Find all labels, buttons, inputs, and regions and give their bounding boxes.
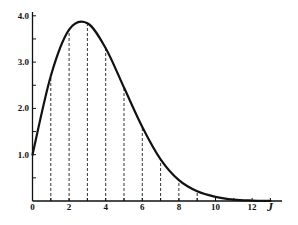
y-tick-label: 2.0 — [18, 103, 30, 113]
x-tick-label: 8 — [177, 202, 182, 212]
axes — [33, 12, 283, 201]
y-tick-label: 4.0 — [18, 11, 30, 21]
distribution-curve — [33, 22, 271, 201]
x-tick-label: 2 — [67, 202, 72, 212]
y-tick-labels: 1.02.03.04.0 — [18, 11, 30, 160]
x-tick-label: 12 — [248, 202, 258, 212]
y-tick-label: 1.0 — [18, 150, 30, 160]
x-tick-label: 10 — [211, 202, 221, 212]
x-tick-labels: 024681012 — [30, 202, 257, 212]
x-tick-label: 0 — [30, 202, 35, 212]
x-tick-label: 4 — [103, 202, 108, 212]
data-series — [33, 22, 271, 201]
chart: 024681012 1.02.03.04.0 J — [0, 0, 298, 225]
x-tick-label: 6 — [140, 202, 145, 212]
drop-lines — [51, 23, 197, 201]
y-tick-label: 3.0 — [18, 57, 30, 67]
x-axis-label: J — [266, 200, 274, 214]
